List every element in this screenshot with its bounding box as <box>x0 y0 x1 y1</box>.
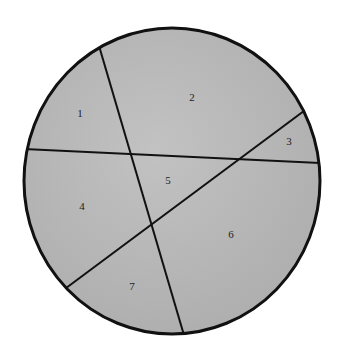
region-label-2: 2 <box>189 91 195 103</box>
region-label-6: 6 <box>228 228 234 240</box>
circle-diagram: 1 2 3 4 5 6 7 <box>0 0 338 357</box>
region-label-7: 7 <box>129 280 135 292</box>
region-label-4: 4 <box>79 200 85 212</box>
region-label-5: 5 <box>165 174 171 186</box>
region-label-1: 1 <box>77 107 83 119</box>
region-label-3: 3 <box>286 135 292 147</box>
circle <box>24 28 320 334</box>
